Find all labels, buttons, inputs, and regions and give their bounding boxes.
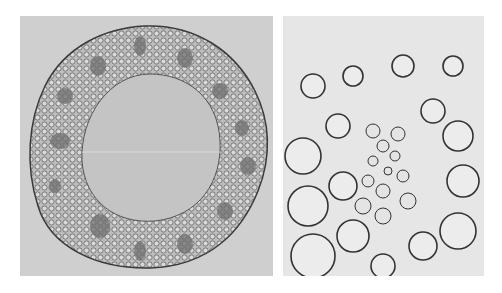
vascular-bundle-closeup-image [283,16,484,276]
stem-cross-section-image [20,16,273,276]
cross-section-drawing [20,16,273,276]
closeup-drawing [283,16,484,276]
